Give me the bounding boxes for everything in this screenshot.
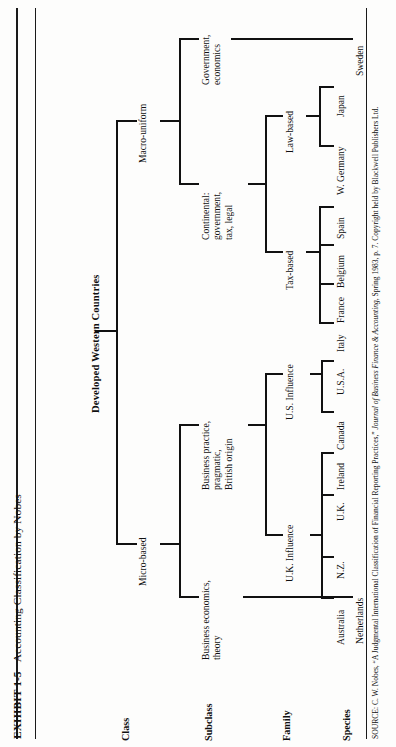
continental-connector xyxy=(248,183,266,185)
node-macro-uniform: Macro-uniform xyxy=(137,104,148,163)
micro-connector xyxy=(160,543,180,545)
uk-influence-species-spine xyxy=(321,452,323,598)
node-government-economics: Government, economics xyxy=(200,35,223,85)
tax-based-arm-spain xyxy=(319,206,334,208)
species-france: France xyxy=(335,297,346,323)
class-spine xyxy=(116,120,118,544)
node-micro-based: Micro-based xyxy=(137,538,148,586)
node-tax-based: Tax-based xyxy=(284,251,295,290)
node-law-based: Law-based xyxy=(284,111,295,153)
classification-tree: Developed Western Countries Macro-unifor… xyxy=(0,0,396,747)
micro-arm-business-economics xyxy=(179,596,199,598)
tax-based-arm-france xyxy=(319,283,334,285)
species-australia: Australia xyxy=(335,610,346,645)
macro-arm-continental xyxy=(179,183,199,185)
species-ireland: Ireland xyxy=(335,463,346,490)
tax-based-arm-belgium xyxy=(319,244,334,246)
continental-family-spine xyxy=(265,115,267,252)
law-based-connector xyxy=(306,115,320,117)
uk-influence-arm-ireland xyxy=(321,452,334,454)
species-japan: Japan xyxy=(335,95,346,117)
species-nz: N.Z. xyxy=(335,561,346,579)
gov-economics-to-sweden xyxy=(231,38,353,40)
species-belgium: Belgium xyxy=(335,255,346,288)
business-economics-to-netherlands xyxy=(243,596,353,598)
exhibit-page: EXHIBIT 1-5Accounting Classification by … xyxy=(0,0,396,747)
tax-based-connector xyxy=(306,251,320,253)
species-canada: Canada xyxy=(335,421,346,450)
macro-arm-gov-economics xyxy=(179,38,199,40)
micro-subclass-spine xyxy=(179,424,181,597)
business-practice-connector xyxy=(248,424,266,426)
uk-influence-arm-nz xyxy=(321,556,334,558)
micro-arm-business-practice xyxy=(179,424,199,426)
law-based-arm-w-germany xyxy=(319,145,334,147)
us-influence-arm-canada xyxy=(321,411,334,413)
species-netherlands: Netherlands xyxy=(354,598,365,644)
law-based-species-spine xyxy=(319,86,321,146)
node-continental: Continental: government, tax, legal xyxy=(200,192,234,240)
us-influence-arm-usa xyxy=(321,360,334,362)
continental-arm-tax-based xyxy=(265,251,283,253)
business-practice-arm-uk xyxy=(265,534,283,536)
species-sweden: Sweden xyxy=(354,46,365,76)
node-us-influence: U.S. Influence xyxy=(284,364,295,420)
law-based-arm-japan xyxy=(319,86,334,88)
node-business-practice: Business practice, pragmatic, British or… xyxy=(200,421,234,490)
species-usa: U.S.A. xyxy=(335,369,346,395)
tax-based-arm-italy xyxy=(319,322,334,324)
business-practice-family-spine xyxy=(265,373,267,535)
species-spain: Spain xyxy=(335,217,346,239)
species-w-germany: W. Germany xyxy=(335,146,346,195)
macro-connector xyxy=(160,120,180,122)
node-business-economics: Business economics, theory xyxy=(200,580,223,660)
macro-subclass-spine xyxy=(179,38,181,184)
tax-based-species-spine xyxy=(319,206,321,323)
species-italy: Italy xyxy=(335,334,346,352)
business-practice-arm-us xyxy=(265,373,283,375)
continental-arm-law-based xyxy=(265,115,283,117)
class-arm-micro xyxy=(116,543,137,545)
species-uk: U.K. xyxy=(335,502,346,521)
node-root: Developed Western Countries xyxy=(90,274,103,413)
uk-influence-arm-uk xyxy=(321,494,334,496)
node-uk-influence: U.K. Influence xyxy=(284,525,295,582)
class-arm-macro xyxy=(116,120,137,122)
us-influence-species-spine xyxy=(321,360,323,412)
